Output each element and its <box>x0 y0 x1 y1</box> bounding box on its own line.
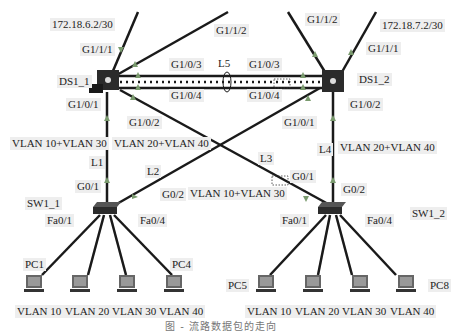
pc5-name: PC5 <box>226 279 249 292</box>
link-l1-vlans: VLAN 10+VLAN 30 <box>10 137 109 150</box>
pc4-name: PC4 <box>170 258 193 271</box>
ds1-2-port-g104: G1/0/4 <box>247 89 282 102</box>
link-l4-vlans: VLAN 20+VLAN 40 <box>338 141 437 154</box>
network-topology-diagram: 172.18.6.2/30 172.18.7.2/30 G1/1/1 G1/1/… <box>0 0 458 335</box>
sw1-2-port-fa04: Fa0/4 <box>365 214 394 227</box>
pc1-name: PC1 <box>23 258 46 271</box>
sw1-1-port-g02: G0/2 <box>160 188 186 201</box>
sw1-1-device <box>93 202 121 214</box>
ds1-2-name: DS1_2 <box>357 73 392 86</box>
ds1-1-device <box>89 70 119 93</box>
link-l2-vlans: VLAN 20+VLAN 40 <box>112 137 211 150</box>
sw1-2-device <box>318 202 346 214</box>
pc3-vlan: VLAN 30 <box>110 305 158 318</box>
link-l2-name: L2 <box>145 165 161 178</box>
ds1-2-device <box>322 70 344 92</box>
ds1-2-uplink-address: 172.18.7.2/30 <box>380 19 445 32</box>
sw1-1-name: SW1_1 <box>25 197 62 210</box>
ds1-1-port-g102: G1/0/2 <box>127 116 162 129</box>
pc4-vlan: VLAN 40 <box>157 305 205 318</box>
pc8-name: PC8 <box>428 279 451 292</box>
ds1-1-port-g112: G1/1/2 <box>214 24 249 37</box>
ds1-2-port-g102: G1/0/2 <box>348 98 383 111</box>
ds1-2-port-g101: G1/0/1 <box>282 116 317 129</box>
ds1-1-port-g101: G1/0/1 <box>66 98 101 111</box>
ds1-1-port-g104: G1/0/4 <box>169 89 204 102</box>
sw1-2-name: SW1_2 <box>410 207 447 220</box>
sw1-1-port-fa01: Fa0/1 <box>45 214 74 227</box>
ds1-2-port-g103: G1/0/3 <box>247 58 282 71</box>
ds1-2-port-g111: G1/1/1 <box>366 42 401 55</box>
link-l4-name: L4 <box>317 143 333 156</box>
ds1-1-port-g103: G1/0/3 <box>169 58 204 71</box>
sw1-2-port-fa01: Fa0/1 <box>280 214 309 227</box>
ds1-1-port-g111: G1/1/1 <box>80 43 115 56</box>
ds1-1-name: DS1_1 <box>57 75 92 88</box>
figure-caption: 图 - 流路数据包的走向 <box>165 318 277 333</box>
sw1-2-port-g02: G0/2 <box>341 183 367 196</box>
ds1-2-port-g112: G1/1/2 <box>305 13 340 26</box>
sw1-1-port-fa04: Fa0/4 <box>138 214 167 227</box>
link-l3-name: L3 <box>258 152 274 165</box>
sw1-2-port-g01: G0/1 <box>290 170 316 183</box>
link-l1-name: L1 <box>89 156 105 169</box>
pc1-vlan: VLAN 10 <box>15 305 63 318</box>
ds1-1-uplink-address: 172.18.6.2/30 <box>50 18 115 31</box>
sw1-1-port-g01: G0/1 <box>75 180 101 193</box>
link-l3-vlans: VLAN 10+VLAN 30 <box>188 187 287 200</box>
pc-icons <box>24 275 416 292</box>
pc8-vlan: VLAN 40 <box>388 305 436 318</box>
link-l5-name: L5 <box>216 57 232 70</box>
pc7-vlan: VLAN 30 <box>340 305 388 318</box>
pc5-vlan: VLAN 10 <box>245 305 293 318</box>
pc2-vlan: VLAN 20 <box>63 305 111 318</box>
pc6-vlan: VLAN 20 <box>293 305 341 318</box>
